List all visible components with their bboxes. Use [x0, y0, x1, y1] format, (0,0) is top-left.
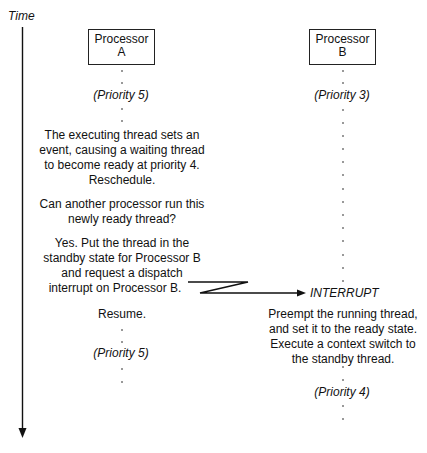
timeline-dot	[342, 188, 344, 190]
timeline-dot	[342, 214, 344, 216]
processor-a-event-text: The executing thread sets an event, caus…	[32, 128, 212, 188]
text-line: newly ready thread?	[32, 212, 212, 227]
timeline-dot	[121, 381, 123, 383]
text-line: Reschedule.	[32, 173, 212, 188]
processor-a-answer-text: Yes. Put the thread in the standby state…	[32, 236, 212, 296]
processor-a-end-priority: (Priority 5)	[51, 346, 191, 360]
processor-a-box: Processor A	[88, 29, 155, 65]
text-line: interrupt on Processor B.	[32, 281, 212, 296]
text-line: The executing thread sets an	[32, 128, 212, 143]
timeline-dot	[121, 329, 123, 331]
processor-b-letter: B	[310, 46, 375, 59]
timeline-dot	[342, 135, 344, 137]
text-line: and set it to the ready state.	[262, 322, 424, 337]
timeline-dot	[342, 254, 344, 256]
processor-b-actions-text: Preempt the running thread, and set it t…	[262, 307, 424, 367]
text-line: Execute a context switch to	[262, 337, 424, 352]
timeline-dot	[121, 341, 123, 343]
text-line: the standby thread.	[262, 352, 424, 367]
timeline-dot	[342, 70, 344, 72]
timeline-dot	[342, 267, 344, 269]
text-line: Yes. Put the thread in the	[32, 236, 212, 251]
timeline-dot	[121, 70, 123, 72]
timeline-dot	[121, 82, 123, 84]
timeline-dot	[342, 240, 344, 242]
timeline-dot	[342, 201, 344, 203]
processor-b-start-priority: (Priority 3)	[272, 88, 412, 102]
text-line: Preempt the running thread,	[262, 307, 424, 322]
timeline-dot	[342, 405, 344, 407]
text-line: to become ready at priority 4.	[32, 158, 212, 173]
processor-b-end-priority: (Priority 4)	[272, 385, 412, 399]
timeline-dot	[342, 227, 344, 229]
text-line: and request a dispatch	[32, 266, 212, 281]
processor-a-start-priority: (Priority 5)	[51, 88, 191, 102]
timeline-dot	[342, 161, 344, 163]
timeline-dot	[342, 174, 344, 176]
processor-b-box: Processor B	[309, 29, 376, 65]
timeline-dot	[342, 148, 344, 150]
time-axis-arrow	[19, 27, 27, 438]
text-line: Can another processor run this	[32, 197, 212, 212]
interrupt-label: INTERRUPT	[310, 286, 379, 300]
timeline-dot	[342, 379, 344, 381]
timeline-dot	[342, 122, 344, 124]
processor-a-question-text: Can another processor run this newly rea…	[32, 197, 212, 227]
processor-a-resume-text: Resume.	[52, 307, 192, 322]
timeline-dot	[342, 82, 344, 84]
timeline-dot	[121, 108, 123, 110]
timeline-dot	[342, 109, 344, 111]
timeline-dot	[121, 120, 123, 122]
processor-a-letter: A	[89, 46, 154, 59]
text-line: event, causing a waiting thread	[32, 143, 212, 158]
timeline-dot	[342, 366, 344, 368]
timeline-dot	[121, 368, 123, 370]
timeline-dot	[342, 418, 344, 420]
text-line: standby state for Processor B	[32, 251, 212, 266]
timeline-dot	[342, 280, 344, 282]
